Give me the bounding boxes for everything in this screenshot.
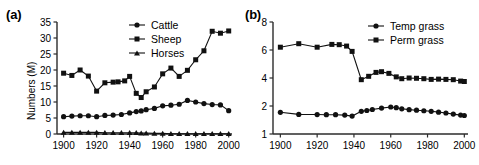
y-tick-label: 10: [40, 97, 52, 108]
data-point: [407, 76, 412, 81]
data-point: [160, 71, 165, 76]
data-point: [388, 104, 393, 109]
data-point: [443, 110, 448, 115]
data-point: [379, 69, 384, 74]
data-point: [210, 29, 215, 34]
series-temp-grass: [278, 104, 467, 118]
data-point: [185, 98, 190, 103]
x-tick-label: 1940: [343, 140, 366, 151]
data-point: [218, 102, 223, 107]
data-point: [462, 79, 467, 84]
data-point: [78, 68, 83, 73]
data-point: [119, 112, 124, 117]
data-point: [177, 74, 182, 79]
data-point: [152, 106, 157, 111]
data-point: [134, 109, 139, 114]
y-tick-label: 4: [261, 73, 267, 84]
data-point: [414, 108, 419, 113]
data-point: [342, 113, 347, 118]
y-tick-label: 5: [45, 113, 51, 124]
data-point: [429, 77, 434, 82]
data-point: [350, 113, 355, 118]
data-point: [94, 89, 99, 94]
data-point: [366, 74, 371, 79]
data-point: [102, 113, 107, 118]
data-point: [386, 71, 391, 76]
data-point: [421, 76, 426, 81]
panel-a-plot: 05101520253035190019201940196019802000Ca…: [0, 0, 240, 165]
data-point: [111, 80, 116, 85]
data-point: [429, 109, 434, 114]
data-point: [296, 41, 301, 46]
data-point: [86, 113, 91, 118]
data-point: [139, 95, 144, 100]
data-point: [168, 66, 173, 71]
data-point: [329, 42, 334, 47]
x-tick-group: 190019201940196019802000: [52, 134, 240, 151]
data-point: [443, 77, 448, 82]
x-tick-label: 1920: [85, 140, 108, 151]
data-point: [337, 42, 342, 47]
data-point: [315, 45, 320, 50]
x-tick-label: 1980: [185, 140, 208, 151]
data-point: [278, 45, 283, 50]
data-point: [193, 57, 198, 62]
legend-marker: [374, 38, 379, 43]
data-point: [407, 107, 412, 112]
data-point: [185, 68, 190, 73]
data-point: [210, 102, 215, 107]
series-sheep: [61, 28, 231, 100]
data-point: [451, 77, 456, 82]
x-tick-label: 2000: [218, 140, 240, 151]
y-tick-group: 05101520253035: [40, 17, 57, 140]
legend-label: Sheep: [151, 33, 182, 45]
x-tick-label: 1900: [269, 140, 292, 151]
y-tick-label: 30: [40, 33, 52, 44]
data-point: [144, 107, 149, 112]
y-tick-label: 8: [261, 17, 267, 28]
x-tick-label: 1980: [416, 140, 439, 151]
legend-marker: [134, 22, 139, 27]
x-tick-label: 2000: [453, 140, 476, 151]
x-tick-label: 1920: [306, 140, 329, 151]
y-tick-label: 35: [40, 17, 52, 28]
data-point: [69, 73, 74, 78]
data-point: [168, 103, 173, 108]
x-tick-label: 1940: [119, 140, 142, 151]
data-point: [379, 106, 384, 111]
data-point: [359, 77, 364, 82]
data-point: [364, 108, 369, 113]
data-point: [421, 108, 426, 113]
data-point: [370, 107, 375, 112]
x-tick-label: 1960: [152, 140, 175, 151]
data-point: [226, 28, 231, 33]
data-point: [278, 110, 283, 115]
data-point: [201, 101, 206, 106]
data-point: [462, 113, 467, 118]
legend-label: Horses: [151, 47, 184, 59]
data-point: [414, 76, 419, 81]
data-point: [344, 44, 349, 49]
data-point: [399, 106, 404, 111]
data-point: [122, 78, 127, 83]
y-tick-label: 2: [261, 101, 267, 112]
data-point: [102, 80, 107, 85]
series-line: [64, 31, 229, 98]
data-point: [160, 103, 165, 108]
data-point: [324, 112, 329, 117]
data-point: [350, 49, 355, 54]
legend: Temp grassPerm grass: [368, 20, 444, 46]
data-point: [177, 102, 182, 107]
data-point: [94, 114, 99, 119]
data-point: [394, 105, 399, 110]
figure-container: (a) Numbers (M) 051015202530351900192019…: [0, 0, 479, 165]
legend: CattleSheepHorses: [129, 19, 184, 59]
y-tick-label: 6: [261, 45, 267, 56]
data-point: [451, 112, 456, 117]
legend-marker: [135, 37, 140, 42]
data-point: [436, 110, 441, 115]
legend-marker: [373, 23, 378, 28]
x-tick-group: 190019201940196019802000: [269, 134, 476, 151]
series-cattle: [61, 98, 231, 120]
data-point: [127, 110, 132, 115]
